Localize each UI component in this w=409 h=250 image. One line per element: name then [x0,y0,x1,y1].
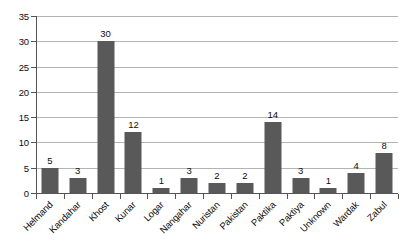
bar-slot: 8 [370,16,398,194]
x-tick-label-zabul: Zabul [365,199,389,223]
bar-paktiya [292,178,309,193]
x-tick-label-logar: Logar [142,199,166,223]
bar-value-label: 3 [298,165,303,176]
bar-paktika [264,122,281,193]
y-tick-mark [31,92,36,93]
bar-value-label: 1 [326,175,331,186]
bar-series: 5330121322143148 [36,16,398,194]
y-tick-label: 25 [19,61,29,72]
y-tick-mark [31,168,36,169]
bar-value-label: 8 [381,140,386,151]
x-tick-mark [36,194,37,199]
x-tick-mark [120,194,121,199]
bar-wardak [348,173,365,193]
x-tick-mark [175,194,176,199]
bar-slot: 12 [120,16,148,194]
y-tick-label: 5 [24,162,29,173]
bar-value-label: 12 [128,119,139,130]
bar-helmand [41,168,58,193]
bar-chart: 05101520253035 5330121322143148 HelmandK… [0,0,409,250]
bar-pakistan [236,183,253,193]
x-tick-mark [370,194,371,199]
x-tick-mark [259,194,260,199]
bar-slot: 3 [175,16,203,194]
bar-value-label: 2 [242,170,247,181]
y-tick-mark [31,16,36,17]
y-tick-label: 10 [19,137,29,148]
y-tick-label: 0 [24,188,29,199]
bar-value-label: 5 [47,155,52,166]
y-tick-label: 30 [19,36,29,47]
x-tick-mark [64,194,65,199]
bar-slot: 3 [287,16,315,194]
bar-slot: 30 [92,16,120,194]
bar-slot: 14 [259,16,287,194]
x-tick-label-nuristan: Nuristan [190,199,222,231]
y-tick-label: 15 [19,112,29,123]
x-axis-line [36,193,398,194]
x-axis-labels: HelmandKandaharKhostKunarLogarNangaharNu… [36,199,398,250]
y-tick-label: 35 [19,11,29,22]
x-tick-label-paktika: Paktika [248,199,277,228]
bar-zabul [376,153,393,193]
x-tick-mark [314,194,315,199]
bar-kandahar [69,178,86,193]
bar-slot: 1 [314,16,342,194]
bar-slot: 4 [342,16,370,194]
x-tick-mark [398,194,399,199]
bar-value-label: 3 [186,165,191,176]
bar-slot: 2 [203,16,231,194]
bar-value-label: 4 [354,160,359,171]
x-tick-label-kunar: Kunar [113,199,138,224]
x-tick-mark [147,194,148,199]
bar-kunar [125,132,142,193]
y-axis-labels: 05101520253035 [0,0,31,250]
bar-khost [97,41,114,193]
y-tick-label: 20 [19,86,29,97]
x-tick-label-pakistan: Pakistan [217,199,250,232]
bar-slot: 2 [231,16,259,194]
y-tick-mark [31,142,36,143]
x-tick-mark [342,194,343,199]
bar-value-label: 14 [267,109,278,120]
y-tick-mark [31,117,36,118]
x-tick-mark [92,194,93,199]
bar-slot: 5 [36,16,64,194]
x-tick-mark [287,194,288,199]
bar-value-label: 30 [100,28,111,39]
y-tick-mark [31,67,36,68]
bar-slot: 1 [147,16,175,194]
bar-nangahar [181,178,198,193]
x-tick-mark [203,194,204,199]
x-tick-mark [231,194,232,199]
bar-value-label: 3 [75,165,80,176]
bar-slot: 3 [64,16,92,194]
x-tick-label-wardak: Wardak [331,199,361,229]
y-tick-mark [31,41,36,42]
bar-value-label: 2 [214,170,219,181]
bar-nuristan [208,183,225,193]
bar-value-label: 1 [159,175,164,186]
x-tick-label-khost: Khost [86,199,110,223]
